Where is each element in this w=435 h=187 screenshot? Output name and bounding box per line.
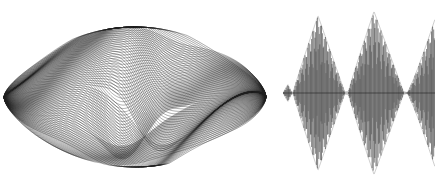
superposition-plot-svg (0, 0, 290, 187)
oscillogram-svg (280, 0, 435, 187)
figure-root (0, 0, 435, 187)
oscillogram-panel (280, 0, 435, 187)
superposition-plot-panel (0, 0, 290, 187)
